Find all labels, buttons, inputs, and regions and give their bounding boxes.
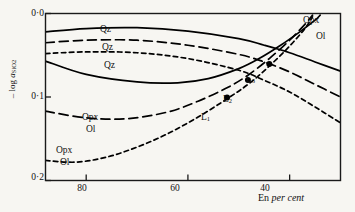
qz-curve-label-3: Qz — [104, 60, 115, 70]
y-axis-label-species: SiO — [10, 63, 17, 73]
curve-opx-ol-short-dash- — [46, 17, 313, 162]
x-tick-label-60: 60 — [161, 183, 189, 193]
liquidus-point-label-L2: L2 — [223, 94, 232, 104]
qz-curve-label-1: Qz — [100, 24, 111, 34]
y-tick-label-1: 0·1 — [14, 91, 44, 101]
liquidus-point-label-L1: L1 — [201, 112, 210, 122]
y-axis-label-activity: a — [7, 73, 17, 78]
opx-curve-label-right: Opx — [303, 15, 319, 25]
ol-curve-label-low: Ol — [60, 157, 70, 167]
ol-curve-label-mid: Ol — [86, 124, 96, 134]
x-axis-label-italic: per cent — [272, 192, 305, 203]
y-tick-label-2: 0·2 — [14, 172, 44, 182]
liquidus-point-label-L3: L3 — [246, 74, 255, 84]
axis-ticks — [46, 14, 290, 181]
y-tick-label-0: 0·0 — [14, 8, 44, 18]
ol-curve-label-right: Ol — [316, 31, 326, 41]
y-axis-label: – log aSiO2 — [7, 39, 17, 119]
qz-curve-label-2: Qz — [102, 42, 113, 52]
x-tick-label-80: 80 — [68, 183, 96, 193]
opx-curve-label-low: Opx — [56, 145, 72, 155]
opx-curve-label-mid: Opx — [82, 112, 98, 122]
plot-canvas — [0, 0, 355, 212]
chart-figure: – log aSiO2 0·0 0·1 0·2 80 60 40 En per … — [0, 0, 355, 212]
x-axis-label: En per cent — [258, 192, 304, 203]
x-axis-label-roman: En — [258, 192, 269, 203]
intersection-marker-L3 — [266, 61, 272, 67]
y-axis-label-species-number: 2 — [10, 60, 17, 63]
curve-qz-long-dash- — [46, 40, 341, 97]
curves-group — [46, 15, 341, 162]
